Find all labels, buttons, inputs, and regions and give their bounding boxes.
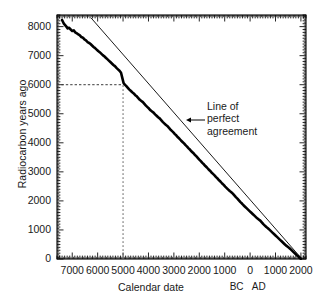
series-calibration-curve — [62, 20, 301, 259]
y-tick-label: 7000 — [17, 49, 51, 61]
chart-figure: Radiocarbon years ago Calendar date BC A… — [0, 0, 326, 306]
y-tick-label: 8000 — [17, 20, 51, 32]
x-minor-ticks — [57, 15, 306, 259]
annotation-arrow — [186, 117, 205, 122]
y-tick-label: 0 — [17, 252, 51, 264]
y-minor-ticks — [57, 15, 306, 259]
y-tick-label: 5000 — [17, 107, 51, 119]
y-tick-label: 1000 — [17, 223, 51, 235]
y-tick-label: 4000 — [17, 136, 51, 148]
y-tick-label: 3000 — [17, 165, 51, 177]
plot-frame — [57, 15, 306, 259]
x-tick-label: 2000 — [279, 264, 323, 276]
y-tick-label: 6000 — [17, 78, 51, 90]
y-tick-label: 2000 — [17, 194, 51, 206]
